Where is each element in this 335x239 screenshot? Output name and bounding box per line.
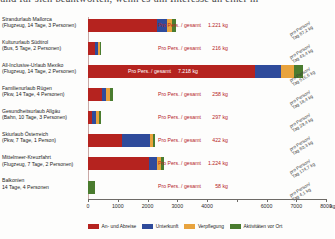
bar-segment[interactable] — [100, 42, 101, 55]
row-total-prefix: Pro Pers. / gesamt — [158, 137, 201, 143]
row-total-unit: kg — [221, 160, 228, 166]
row-label-detail: (Flugzeug, 7 Tage, 2 Personen) — [2, 161, 84, 167]
row-total-unit: kg — [221, 183, 228, 189]
x-axis: 01000200030004000600070008000 kg — [88, 199, 326, 213]
row-total-unit: kg — [191, 68, 198, 74]
row-total-unit: kg — [221, 137, 228, 143]
bar-segment[interactable] — [99, 111, 101, 124]
bar-segment[interactable] — [110, 88, 112, 101]
axis-tick — [88, 199, 89, 202]
axis-tick — [177, 199, 178, 202]
row-total-label: Pro Pers. / gesamt 422 kg — [158, 137, 228, 143]
row-total-prefix: Pro Pers. / gesamt — [158, 183, 201, 189]
legend-swatch — [230, 224, 241, 229]
row-label: Familienurlaub Rügen(Pkw, 14 Tage, 4 Per… — [2, 85, 84, 98]
row-label: Strandurlaub Mallorca(Flugzeug, 14 Tage,… — [2, 16, 84, 29]
row-total-prefix: Pro Pers. / gesamt — [158, 114, 201, 120]
stacked-bar[interactable] — [88, 42, 101, 55]
stacked-bar-chart: Strandurlaub Mallorca(Flugzeug, 14 Tage,… — [0, 13, 334, 239]
axis-tick-label: 3000 — [171, 203, 183, 209]
row-total-value: 216 — [201, 45, 221, 51]
legend-swatch — [88, 224, 99, 229]
chart-row: All-Inclusive-Urlaub Mexiko(Flugzeug, 14… — [0, 61, 334, 84]
row-total-value: 7.218 — [171, 68, 191, 74]
row-label-detail: (Pkw, 7 Tage, 1 Person) — [2, 137, 84, 143]
row-total-value: 297 — [201, 114, 221, 120]
bar-segment[interactable] — [255, 65, 281, 78]
axis-tick — [326, 199, 327, 202]
chart-row: Kultururlaub Südtirol(Bus, 5 Tage, 2 Per… — [0, 38, 334, 61]
legend-item[interactable]: An- und Abreise — [88, 224, 136, 229]
axis-tick-label: 0 — [87, 203, 90, 209]
row-total-prefix: Pro Pers. / gesamt — [158, 160, 201, 166]
axis-tick-label: 1000 — [112, 203, 124, 209]
bar-segment[interactable] — [153, 134, 155, 147]
stacked-bar[interactable] — [88, 134, 155, 147]
row-total-value: 1.221 — [201, 22, 221, 28]
row-total-unit: kg — [221, 91, 228, 97]
bar-segment[interactable] — [88, 181, 95, 194]
row-label: Mittelmeer-Kreuzfahrt(Flugzeug, 7 Tage, … — [2, 154, 84, 167]
row-label: Kultururlaub Südtirol(Bus, 5 Tage, 2 Per… — [2, 39, 84, 52]
axis-tick-label: 6000 — [261, 203, 273, 209]
clipped-body-text: und für sich beantworten, wenn es um Int… — [0, 0, 334, 5]
legend-label: Unterkunft — [156, 224, 179, 229]
axis-tick — [296, 199, 297, 202]
axis-tick-label: 7000 — [290, 203, 302, 209]
row-label: All-Inclusive-Urlaub Mexiko(Flugzeug, 14… — [2, 62, 84, 75]
bar-segment[interactable] — [88, 134, 122, 147]
legend-label: Aktivitäten vor Ort — [243, 224, 282, 229]
legend-label: Verpflegung — [198, 224, 224, 229]
chart-row: Strandurlaub Mallorca(Flugzeug, 14 Tage,… — [0, 15, 334, 38]
row-total-label: Pro Pers. / gesamt 1.221 kg — [158, 22, 228, 28]
row-total-label: Pro Pers. / gesamt 258 kg — [158, 91, 228, 97]
axis-tick — [148, 199, 149, 202]
row-label-detail: (Flugzeug, 14 Tage, 2 Personen) — [2, 68, 84, 74]
axis-tick-label: 2000 — [142, 203, 154, 209]
row-label: Balkonien14 Tage, 4 Personen — [2, 177, 84, 190]
row-label: Skiurlaub Österreich(Pkw, 7 Tage, 1 Pers… — [2, 131, 84, 144]
row-label-detail: (Bahn, 10 Tage, 3 Personen) — [2, 114, 84, 120]
row-total-prefix: Pro Pers. / gesamt — [158, 91, 201, 97]
row-label: Gesundheitsurlaub Allgäu(Bahn, 10 Tage, … — [2, 108, 84, 121]
chart-row: Balkonien14 Tage, 4 PersonenPro Pers. / … — [0, 176, 334, 199]
row-total-label: Pro Pers. / gesamt 1.224 kg — [158, 160, 228, 166]
row-total-unit: kg — [221, 45, 228, 51]
row-total-label: Pro Pers. / gesamt 216 kg — [158, 45, 228, 51]
stacked-bar[interactable] — [88, 157, 164, 170]
bar-segment[interactable] — [88, 19, 157, 32]
axis-tick-label: 4000 — [201, 203, 213, 209]
stacked-bar[interactable] — [88, 111, 101, 124]
row-total-label: Pro Pers. / gesamt 297 kg — [158, 114, 228, 120]
legend-item[interactable]: Aktivitäten vor Ort — [230, 224, 282, 229]
row-total-label: Pro Pers. / gesamt 7.218 kg — [128, 68, 198, 74]
row-total-value: 58 — [201, 183, 221, 189]
row-label-detail: (Bus, 5 Tage, 2 Personen) — [2, 45, 84, 51]
chart-row: Skiurlaub Österreich(Pkw, 7 Tage, 1 Pers… — [0, 130, 334, 153]
plot-area: Strandurlaub Mallorca(Flugzeug, 14 Tage,… — [0, 13, 334, 198]
bar-segment[interactable] — [88, 42, 95, 55]
row-total-prefix: Pro Pers. / gesamt — [158, 45, 201, 51]
row-label-detail: (Flugzeug, 14 Tage, 3 Personen) — [2, 22, 84, 28]
chart-row: Familienurlaub Rügen(Pkw, 14 Tage, 4 Per… — [0, 84, 334, 107]
legend-swatch — [142, 224, 153, 229]
legend-label: An- und Abreise — [102, 224, 137, 229]
row-label-detail: (Pkw, 14 Tage, 4 Personen) — [2, 91, 84, 97]
bar-rows: Strandurlaub Mallorca(Flugzeug, 14 Tage,… — [0, 13, 334, 198]
bar-segment[interactable] — [88, 88, 102, 101]
row-total-value: 422 — [201, 137, 221, 143]
bar-segment[interactable] — [122, 134, 150, 147]
legend-item[interactable]: Unterkunft — [142, 224, 178, 229]
row-label-detail: 14 Tage, 4 Personen — [2, 184, 84, 190]
chart-row: Gesundheitsurlaub Allgäu(Bahn, 10 Tage, … — [0, 107, 334, 130]
axis-tick — [267, 199, 268, 202]
row-total-unit: kg — [221, 114, 228, 120]
bar-segment[interactable] — [88, 157, 149, 170]
bar-segment[interactable] — [149, 157, 157, 170]
legend-item[interactable]: Verpflegung — [184, 224, 224, 229]
stacked-bar[interactable] — [88, 88, 113, 101]
stacked-bar[interactable] — [88, 181, 95, 194]
axis-tick — [207, 199, 208, 202]
axis-unit-label: kg — [330, 203, 335, 209]
row-total-prefix: Pro Pers. / gesamt — [158, 22, 201, 28]
